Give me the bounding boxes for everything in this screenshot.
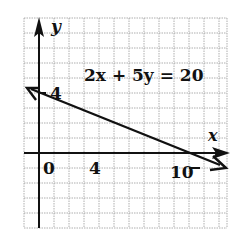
x-tick-label-4: 4 bbox=[89, 158, 101, 178]
grid bbox=[24, 18, 227, 228]
coordinate-graph: y x 4 0 4 10 2x + 5y = 20 bbox=[0, 0, 240, 239]
y-tick-label-4: 4 bbox=[50, 83, 62, 103]
y-axis-label: y bbox=[50, 16, 62, 36]
x-tick-label-10: 10 bbox=[170, 162, 194, 182]
origin-label: 0 bbox=[43, 158, 55, 178]
equation-label: 2x + 5y = 20 bbox=[84, 65, 204, 85]
x-axis-label: x bbox=[207, 126, 218, 145]
